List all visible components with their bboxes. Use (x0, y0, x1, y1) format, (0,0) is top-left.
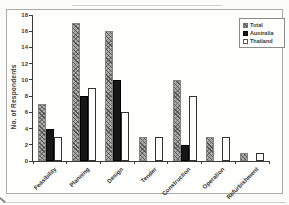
x-axis-tick (269, 161, 270, 164)
x-axis-category-label: Feasibility (32, 166, 57, 191)
bar-australia-design (113, 80, 121, 161)
y-axis-tick (29, 15, 32, 16)
bar-total-construction (173, 80, 181, 161)
legend-item: Thailand (243, 37, 282, 45)
x-axis-tick (66, 161, 67, 164)
bar-australia-construction (181, 145, 189, 161)
x-axis-tick (167, 161, 168, 164)
legend-label: Thailand (250, 38, 273, 44)
y-axis-tick (29, 47, 32, 48)
y-axis-tick-label: 4 (11, 126, 28, 132)
x-axis-category-label: Tender (140, 166, 158, 184)
legend-swatch-icon (243, 23, 248, 28)
bar-total-refurbishment (240, 153, 248, 161)
bar-total-feasibility (38, 104, 46, 161)
y-axis-tick-label: 2 (11, 142, 28, 148)
scan-artifact-line (72, 5, 222, 6)
bar-total-planning (72, 23, 80, 161)
y-axis-tick-label: 12 (11, 61, 28, 67)
y-axis-tick-label: 8 (11, 93, 28, 99)
y-axis-tick (29, 31, 32, 32)
legend-label: Australia (250, 30, 274, 36)
x-axis-tick (100, 161, 101, 164)
legend-swatch-icon (243, 39, 248, 44)
x-axis-tick (134, 161, 135, 164)
y-axis-tick-label: 10 (11, 77, 28, 83)
x-axis-tick (235, 161, 236, 164)
y-axis-tick-label: 18 (11, 12, 28, 18)
scan-artifact-smudge (0, 197, 6, 203)
bar-thailand-construction (189, 96, 197, 161)
chart-frame: No. of Respondents 181614121086420Feasib… (6, 9, 283, 194)
y-axis-tick (29, 96, 32, 97)
bar-thailand-refurbishment (256, 153, 264, 161)
y-axis-tick-label: 16 (11, 28, 28, 34)
legend: TotalAustraliaThailand (239, 18, 285, 48)
y-axis-tick (29, 79, 32, 80)
bar-total-tender (139, 137, 147, 161)
legend-item: Australia (243, 29, 282, 37)
legend-item: Total (243, 21, 282, 29)
scanned-bar-chart-figure: No. of Respondents 181614121086420Feasib… (0, 0, 289, 205)
bar-thailand-design (121, 112, 129, 161)
legend-label: Total (250, 22, 263, 28)
bar-total-design (105, 31, 113, 161)
y-axis-tick (29, 144, 32, 145)
bar-total-operation (206, 137, 214, 161)
plot-area: 181614121086420FeasibilityPlanningDesign… (32, 15, 269, 162)
y-axis-tick (29, 128, 32, 129)
y-axis-tick-label: 0 (11, 158, 28, 164)
x-axis-category-label: Refurbishment (225, 166, 259, 200)
bar-australia-planning (80, 96, 88, 161)
y-axis-tick (29, 63, 32, 64)
x-axis-category-label: Construction (161, 166, 192, 197)
y-axis-tick-label: 14 (11, 44, 28, 50)
x-axis-category-label: Planning (69, 166, 91, 188)
bar-thailand-operation (222, 137, 230, 161)
bar-thailand-feasibility (54, 137, 62, 161)
scan-artifact-line (2, 202, 286, 203)
bar-thailand-tender (155, 137, 163, 161)
bar-thailand-planning (88, 88, 96, 161)
x-axis-tick (33, 161, 34, 164)
x-axis-tick (201, 161, 202, 164)
x-axis-category-label: Operation (201, 166, 225, 190)
bar-australia-feasibility (46, 129, 54, 161)
y-axis-tick (29, 112, 32, 113)
x-axis-category-label: Design (106, 166, 124, 184)
y-axis-tick-label: 6 (11, 109, 28, 115)
legend-swatch-icon (243, 31, 248, 36)
